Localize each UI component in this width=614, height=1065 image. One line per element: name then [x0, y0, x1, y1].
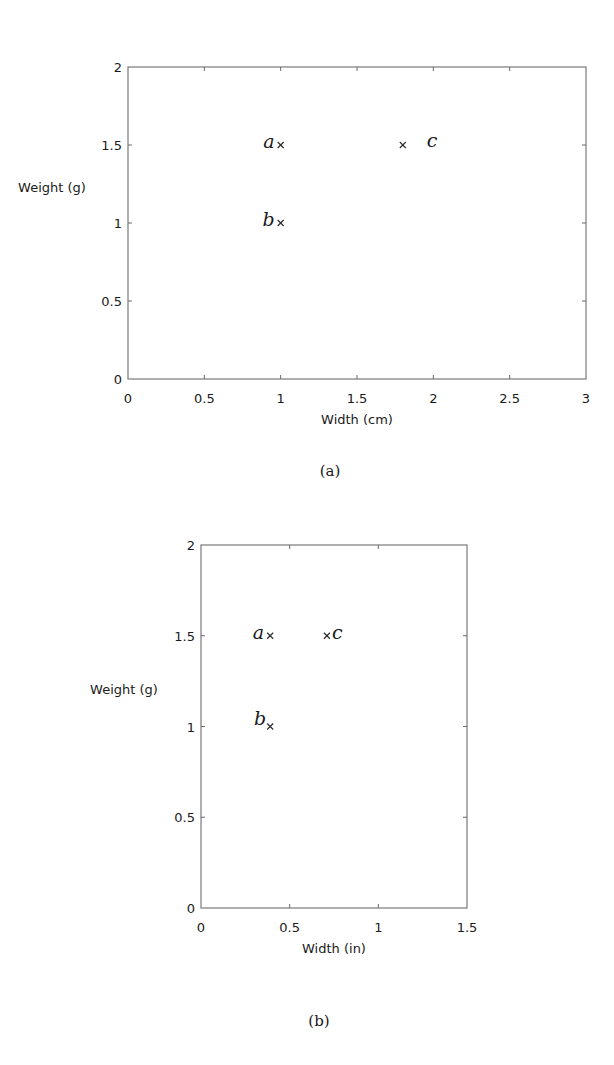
x-tick-label: 0.5 [279, 920, 300, 935]
x-tick-label: 2 [429, 391, 437, 406]
y-axis-label: Weight (g) [90, 682, 158, 697]
data-point-b: b [254, 707, 273, 730]
point-label: b [254, 707, 266, 729]
y-tick-label: 0.5 [174, 810, 195, 825]
x-tick-label: 1 [277, 391, 285, 406]
point-label: b [262, 208, 274, 230]
x-tick-label: 3 [582, 391, 590, 406]
data-point-b: b [262, 208, 283, 230]
y-axis-label: Weight (g) [18, 180, 86, 195]
y-tick-label: 1.5 [101, 138, 122, 153]
data-point-c: c [324, 621, 343, 643]
figure-caption: (a) [320, 462, 341, 480]
x-axis-label: Width (cm) [321, 412, 393, 427]
x-tick-label: 1 [374, 920, 382, 935]
point-label: a [263, 130, 274, 152]
chart-a-width-cm: 00.511.522.5300.511.52Width (cm)Weight (… [18, 60, 590, 480]
x-axis-label: Width (in) [302, 941, 366, 956]
x-tick-label: 0 [197, 920, 205, 935]
y-tick-label: 1 [187, 720, 195, 735]
data-point-c: c [400, 129, 438, 151]
x-tick-label: 0.5 [194, 391, 215, 406]
y-tick-label: 0 [114, 372, 122, 387]
plot-frame [201, 545, 467, 908]
point-label: c [427, 129, 438, 151]
y-tick-label: 0 [187, 901, 195, 916]
x-tick-label: 1.5 [347, 391, 368, 406]
x-tick-label: 0 [124, 391, 132, 406]
y-tick-label: 0.5 [101, 294, 122, 309]
plot-frame [128, 67, 586, 379]
y-tick-label: 2 [187, 538, 195, 553]
point-label: c [332, 621, 343, 643]
y-tick-label: 1 [114, 216, 122, 231]
chart-b-width-in: 00.511.500.511.52Width (in)Weight (g)abc… [90, 538, 477, 1030]
x-tick-label: 1.5 [457, 920, 478, 935]
y-tick-label: 1.5 [174, 629, 195, 644]
figure: 00.511.522.5300.511.52Width (cm)Weight (… [0, 0, 614, 1065]
point-label: a [253, 621, 264, 643]
x-tick-label: 2.5 [499, 391, 520, 406]
data-point-a: a [253, 621, 273, 643]
figure-caption: (b) [308, 1012, 329, 1030]
y-tick-label: 2 [114, 60, 122, 75]
data-point-a: a [263, 130, 283, 152]
